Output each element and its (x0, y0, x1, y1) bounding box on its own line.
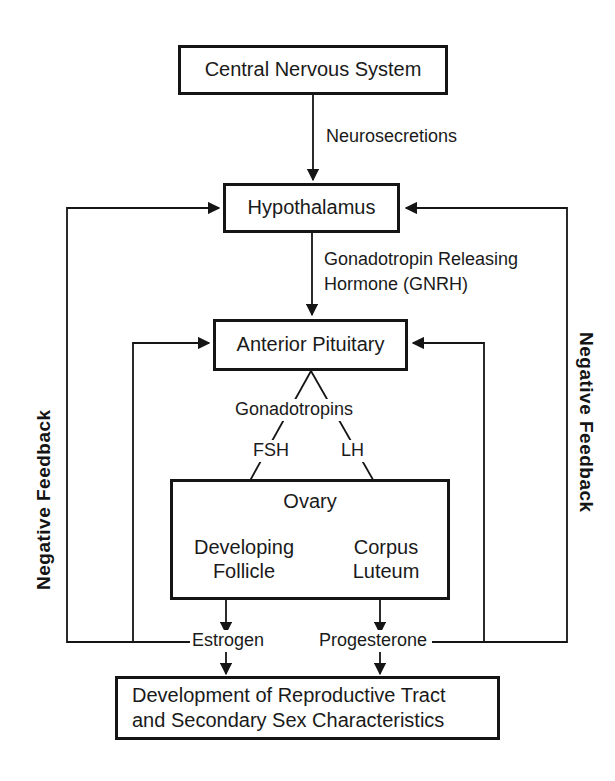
diagram-canvas: Central Nervous System Hypothalamus Ante… (0, 0, 615, 781)
node-developing-follicle-label: Developing Follicle (179, 536, 309, 583)
edge-label-neurosecretions: Neurosecretions (326, 126, 457, 148)
node-development-line-1: Development of Reproductive Tract (132, 684, 446, 708)
node-central-nervous-system-label: Central Nervous System (205, 58, 422, 82)
edge-label-progesterone: Progesterone (317, 630, 429, 652)
edge-label-gnrh-line2: Hormone (GNRH) (324, 274, 468, 296)
node-ovary-label: Ovary (173, 490, 447, 514)
feedback-label-right: Negative Feedback (575, 332, 597, 513)
node-ovary: Ovary Developing Follicle Corpus Luteum (170, 479, 450, 600)
node-corpus-luteum-label: Corpus Luteum (331, 536, 441, 583)
edge-label-gonadotropins: Gonadotropins (232, 399, 356, 421)
edge-label-fsh: FSH (250, 440, 292, 462)
node-development-reproductive-tract: Development of Reproductive Tract and Se… (115, 676, 500, 740)
node-hypothalamus: Hypothalamus (223, 183, 400, 233)
node-development-line-2: and Secondary Sex Characteristics (132, 709, 444, 733)
edge-label-gnrh-line1: Gonadotropin Releasing (324, 249, 518, 271)
node-hypothalamus-label: Hypothalamus (248, 196, 376, 220)
node-anterior-pituitary-label: Anterior Pituitary (237, 333, 385, 357)
feedback-label-left: Negative Feedback (33, 409, 55, 590)
connector-layer (0, 0, 615, 781)
node-central-nervous-system: Central Nervous System (178, 45, 448, 95)
node-anterior-pituitary: Anterior Pituitary (213, 319, 408, 371)
edge-label-estrogen: Estrogen (190, 630, 266, 652)
edge-label-lh: LH (338, 440, 367, 462)
